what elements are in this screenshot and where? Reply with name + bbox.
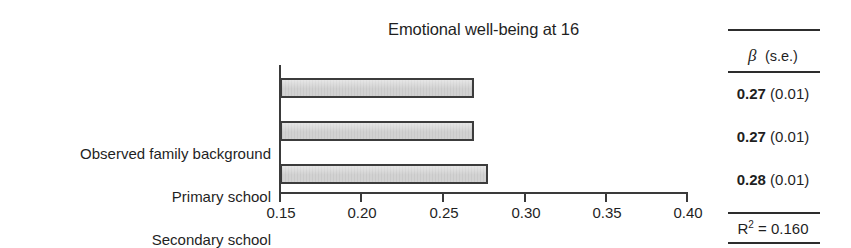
x-tick-label-3: 0.30	[496, 204, 556, 221]
r-squared-label: R	[737, 220, 748, 237]
x-tick-label-4: 0.35	[577, 204, 637, 221]
category-label-observed-family-background: Observed family background	[1, 145, 271, 162]
bar-primary-school	[280, 121, 474, 141]
coefficient-value-1: 0.27	[737, 128, 766, 145]
category-label-primary-school: Primary school	[1, 188, 271, 205]
x-tick-label-2: 0.25	[414, 204, 474, 221]
std-error-value-0: (0.01)	[770, 85, 809, 102]
table-rule-top	[728, 29, 820, 31]
beta-symbol: β	[748, 46, 756, 65]
x-tick-mark-3	[524, 194, 526, 202]
bar-observed-family-background	[280, 78, 474, 98]
std-error-value-1: (0.01)	[770, 128, 809, 145]
x-tick-mark-2	[442, 194, 444, 202]
x-tick-mark-0	[279, 194, 281, 202]
stats-row-primary-school: 0.27 (0.01)	[723, 128, 823, 145]
x-axis-line	[279, 192, 688, 194]
r-squared-value: = 0.160	[758, 220, 808, 237]
x-tick-mark-5	[686, 194, 688, 202]
plot-area: 0.15 0.20 0.25 0.30 0.35 0.40	[279, 65, 688, 192]
x-tick-mark-1	[360, 194, 362, 202]
category-axis-labels: Observed family background Primary schoo…	[0, 65, 271, 192]
stats-row-observed-family-background: 0.27 (0.01)	[723, 85, 823, 102]
table-rule-header-bottom	[728, 71, 820, 73]
coefficient-value-2: 0.28	[737, 171, 766, 188]
table-rule-footer-top	[728, 212, 820, 214]
x-tick-label-0: 0.15	[251, 204, 311, 221]
x-tick-label-5: 0.40	[658, 204, 718, 221]
x-tick-label-1: 0.20	[332, 204, 392, 221]
std-error-header-label: (s.e.)	[765, 48, 798, 64]
std-error-value-2: (0.01)	[770, 171, 809, 188]
table-rule-bottom	[728, 242, 820, 244]
stats-table: β (s.e.) 0.27 (0.01) 0.27 (0.01) 0.28 (0…	[723, 20, 823, 235]
x-tick-mark-4	[605, 194, 607, 202]
coefficient-value-0: 0.27	[737, 85, 766, 102]
stats-row-secondary-school: 0.28 (0.01)	[723, 171, 823, 188]
chart-title: Emotional well-being at 16	[279, 20, 688, 39]
category-label-secondary-school: Secondary school	[1, 231, 271, 248]
stats-table-header: β (s.e.)	[723, 46, 823, 66]
bar-secondary-school	[280, 164, 488, 184]
r-squared-row: R2 = 0.160	[723, 219, 823, 237]
